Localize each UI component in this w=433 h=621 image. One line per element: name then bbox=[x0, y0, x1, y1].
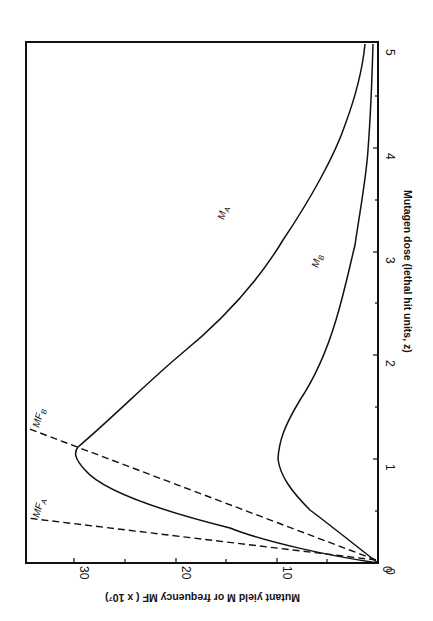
label-mf-b: MFB bbox=[30, 407, 49, 429]
label-m-a: MA bbox=[215, 205, 232, 222]
dose-tick-4: 4 bbox=[383, 153, 397, 160]
label-m-b: MB bbox=[309, 253, 326, 270]
svg-text:MB: MB bbox=[309, 253, 326, 270]
label-mf-a: MFA bbox=[30, 497, 49, 519]
svg-text:MFB: MFB bbox=[30, 407, 49, 429]
dose-tick-labels: 0 1 2 3 4 5 bbox=[383, 49, 397, 575]
value-tick-20: 20 bbox=[179, 566, 193, 580]
plot-frame bbox=[26, 42, 378, 563]
svg-text:MFA: MFA bbox=[30, 497, 49, 519]
svg-text:MA: MA bbox=[215, 205, 232, 222]
value-axis-title: Mutant yield M or frequency MF ( x 10⁷) bbox=[105, 592, 300, 604]
dose-axis-title: Mutagen dose (lethal hit units, z) bbox=[402, 190, 414, 353]
dose-tick-5: 5 bbox=[383, 49, 397, 56]
series-line-mf-b bbox=[27, 428, 376, 560]
value-tick-0: 0 bbox=[380, 566, 394, 573]
dose-tick-2: 2 bbox=[383, 360, 397, 367]
value-tick-labels: 0 10 20 30 bbox=[77, 566, 394, 580]
series-line-m-b bbox=[278, 44, 378, 563]
series-line-m-a bbox=[76, 44, 378, 563]
dose-tick-1: 1 bbox=[383, 464, 397, 471]
dose-tick-3: 3 bbox=[383, 257, 397, 264]
mutant-yield-chart: 0 1 2 3 4 5 0 10 20 30 Mutagen dose (let… bbox=[0, 0, 433, 621]
value-tick-30: 30 bbox=[77, 566, 91, 580]
value-tick-10: 10 bbox=[280, 566, 294, 580]
